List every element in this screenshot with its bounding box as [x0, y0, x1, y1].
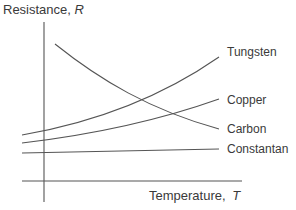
label-copper: Copper — [227, 93, 266, 107]
y-axis-title: Resistance, R — [3, 2, 84, 17]
curve-copper — [22, 99, 219, 143]
label-tungsten: Tungsten — [227, 45, 277, 59]
resistance-temperature-diagram: Resistance, R Temperature, T Tungsten Co… — [0, 0, 296, 210]
curve-carbon — [55, 44, 219, 129]
label-carbon: Carbon — [227, 122, 266, 136]
x-axis-title: Temperature, T — [149, 188, 241, 203]
curve-tungsten — [22, 57, 219, 135]
curve-constantan — [22, 149, 219, 153]
label-constantan: Constantan — [227, 142, 288, 156]
